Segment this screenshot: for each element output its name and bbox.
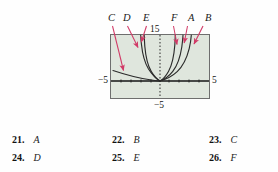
curve-label-d: D [123,13,131,24]
answer-value: C [231,134,238,145]
answer-number: 26. [209,152,222,163]
axis-label-y-top: 15 [150,25,160,35]
curve-label-c: C [108,13,115,24]
list-item: 22.B [112,130,140,146]
curve-label-f: F [171,13,177,24]
curve-label-e: E [143,13,149,24]
list-item: 26.F [209,148,237,164]
curve-label-a: A [188,13,194,24]
figure-graph-of-functions: C D E F A B 15 −5 5 −5 [0,0,278,118]
list-item: 24.D [12,148,41,164]
axis-label-x-right: 5 [212,76,217,86]
list-item: 23.C [209,130,237,146]
axis-label-y-bottom: −5 [154,101,164,111]
answer-list: 21.A 22.B 23.C 24.D 25.E 26.F [0,118,278,172]
answer-value: E [134,152,140,163]
answer-number: 21. [12,134,25,145]
answer-value: D [34,152,41,163]
answer-value: A [34,134,40,145]
answer-number: 24. [12,152,25,163]
answer-number: 25. [112,152,125,163]
answer-number: 23. [209,134,222,145]
list-item: 25.E [112,148,140,164]
plot-svg [0,0,278,118]
page-root: C D E F A B 15 −5 5 −5 21.A 22.B 23.C 24… [0,0,278,172]
axis-label-x-left: −5 [98,76,108,86]
answer-value: B [134,134,140,145]
answer-value: F [231,152,237,163]
curve-label-b: B [205,13,211,24]
answer-number: 22. [112,134,125,145]
list-item: 21.A [12,130,40,146]
